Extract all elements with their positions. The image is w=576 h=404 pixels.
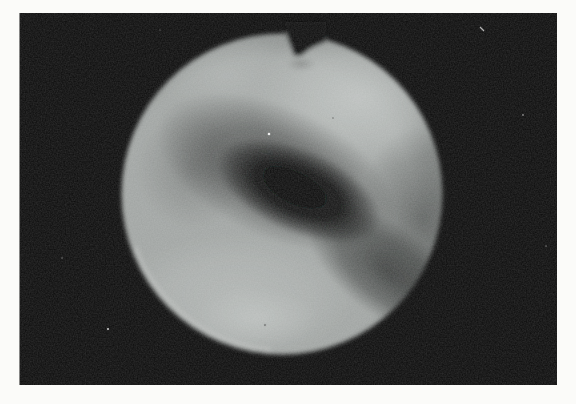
scanned-page <box>0 0 576 404</box>
photo-figure <box>0 0 576 404</box>
film-grain-overlay <box>20 13 558 385</box>
